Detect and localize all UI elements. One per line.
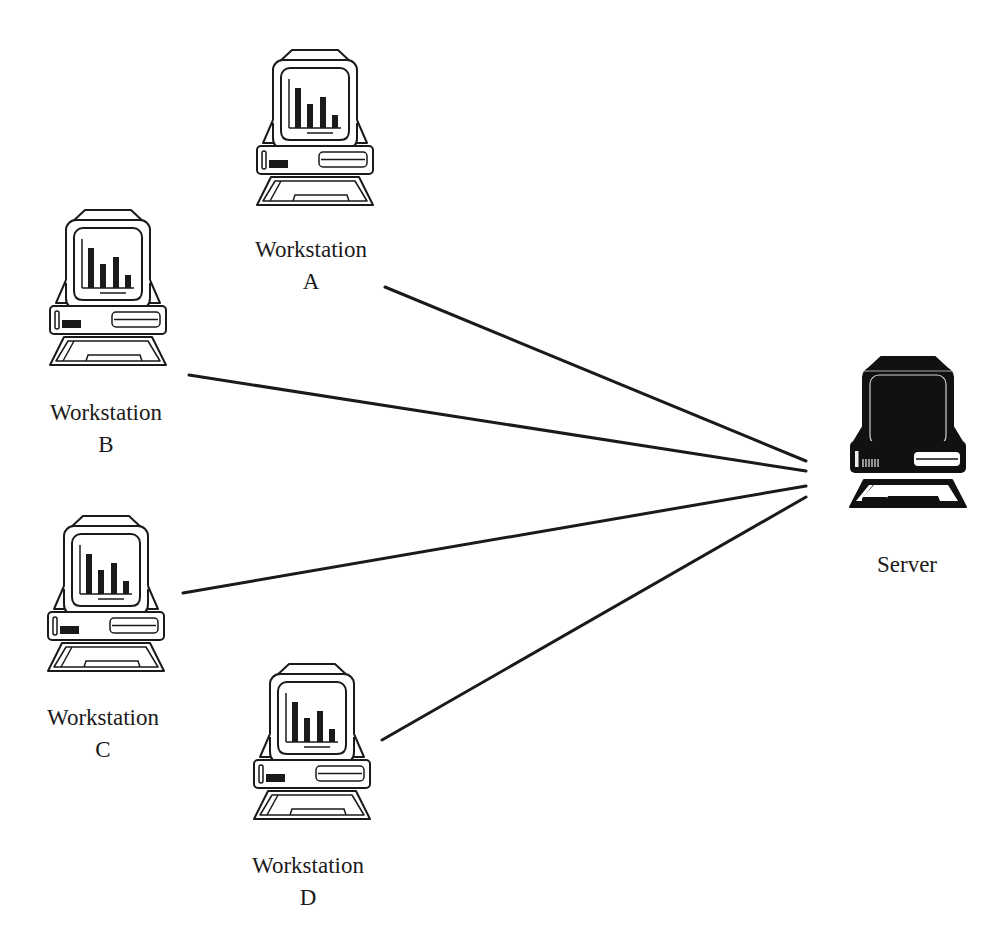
workstation-d-label: Workstation D [252, 850, 364, 914]
workstation-computer-icon [46, 514, 166, 674]
link-workstation-d-server [382, 497, 806, 740]
workstation-c-node[interactable] [46, 514, 166, 674]
workstation-d-node[interactable] [252, 662, 372, 822]
workstation-b-label-line1: Workstation [50, 397, 162, 429]
workstation-c-label: Workstation C [47, 702, 159, 766]
workstation-b-label-line2: B [50, 429, 162, 461]
workstation-b-node[interactable] [48, 208, 168, 368]
workstation-d-label-line1: Workstation [252, 850, 364, 882]
workstation-a-node[interactable] [255, 48, 375, 208]
workstation-c-label-line2: C [47, 734, 159, 766]
workstation-a-label-line1: Workstation [255, 234, 367, 266]
workstation-a-label-line2: A [255, 266, 367, 298]
server-label: Server [877, 549, 937, 581]
workstation-b-label: Workstation B [50, 397, 162, 461]
workstation-a-label: Workstation A [255, 234, 367, 298]
link-workstation-c-server [183, 486, 806, 593]
workstation-computer-icon [252, 662, 372, 822]
link-workstation-a-server [385, 287, 806, 461]
workstation-d-label-line2: D [252, 882, 364, 914]
workstation-c-label-line1: Workstation [47, 702, 159, 734]
workstation-computer-icon [255, 48, 375, 208]
server-label-text: Server [877, 549, 937, 581]
workstation-computer-icon [48, 208, 168, 368]
server-computer-icon [848, 355, 968, 510]
server-node[interactable] [848, 355, 968, 510]
